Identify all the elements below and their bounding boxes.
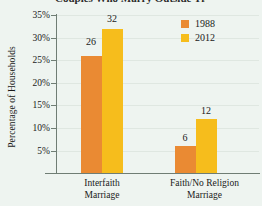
bar-2012-faith-no-religion bbox=[196, 119, 217, 173]
legend: 1988 2012 bbox=[181, 17, 215, 45]
legend-item-1988: 1988 bbox=[181, 17, 215, 31]
bar-label-2012-faith-no-religion: 12 bbox=[191, 106, 221, 116]
category-label-line-1: Interfaith bbox=[62, 178, 142, 190]
legend-label-2012: 2012 bbox=[195, 33, 215, 43]
category-label-line-2: Marriage bbox=[62, 190, 142, 202]
category-label-line-2: Marriage bbox=[152, 190, 257, 202]
bar-1988-faith-no-religion bbox=[175, 146, 196, 173]
bar-label-1988-faith-no-religion: 6 bbox=[170, 133, 200, 143]
category-label-line-1: Faith/No Religion bbox=[152, 178, 257, 190]
bar-label-2012-interfaith: 32 bbox=[97, 14, 127, 24]
category-label-interfaith-marriage: Interfaith Marriage bbox=[62, 178, 142, 201]
legend-swatch-icon-1988 bbox=[181, 20, 189, 28]
category-label-faith-no-religion-marriage: Faith/No Religion Marriage bbox=[152, 178, 257, 201]
bar-2012-interfaith bbox=[102, 29, 123, 173]
bars-layer bbox=[0, 14, 262, 173]
x-axis-line bbox=[45, 173, 260, 174]
legend-swatch-icon-2012 bbox=[181, 34, 189, 42]
bar-label-1988-interfaith: 26 bbox=[76, 37, 106, 47]
bar-1988-interfaith bbox=[81, 56, 102, 173]
legend-label-1988: 1988 bbox=[195, 19, 215, 29]
bar-chart: Couples Who Marry Outside Their Faith Pe… bbox=[0, 0, 262, 206]
chart-title: Couples Who Marry Outside Their Faith bbox=[55, 0, 205, 4]
legend-item-2012: 2012 bbox=[181, 31, 215, 45]
